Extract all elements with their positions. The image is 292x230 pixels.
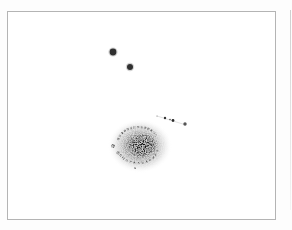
scanned-page — [0, 0, 292, 230]
bright-stars — [108, 47, 134, 71]
star-chain — [156, 115, 186, 125]
galaxy — [108, 119, 172, 173]
astronomical-photo — [0, 0, 292, 230]
